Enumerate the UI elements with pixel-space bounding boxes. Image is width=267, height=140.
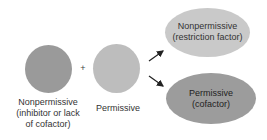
arrow-down-icon — [149, 76, 163, 86]
permissive-outcome-label: Permissive (cofactor) — [166, 88, 256, 110]
nonpermissive-outcome-label-line2: (restriction factor) — [165, 32, 250, 43]
permissive-outcome-label-line1: Permissive — [166, 88, 256, 99]
nonpermissive-outcome-label: Nonpermissive (restriction factor) — [165, 21, 250, 43]
permissive-outcome-label-line2: (cofactor) — [166, 99, 256, 110]
nonpermissive-outcome-label-line1: Nonpermissive — [165, 21, 250, 32]
arrow-up-icon — [149, 51, 163, 61]
